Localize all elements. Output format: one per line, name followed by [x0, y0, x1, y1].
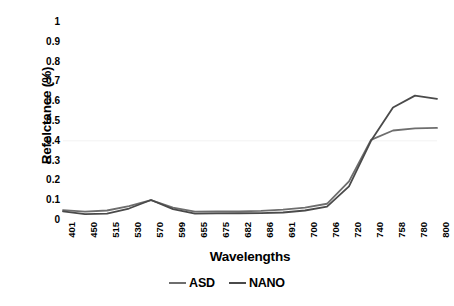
- x-axis-tick-label: 530: [133, 222, 143, 238]
- y-axis-tick-labels: 10.90.80.70.60.50.40.30.20.10: [30, 0, 60, 306]
- y-axis-tick-label: 0.6: [30, 96, 60, 106]
- legend-line-swatch: [229, 282, 246, 285]
- y-axis-tick-label: 0.9: [30, 37, 60, 47]
- y-axis-tick-label: 0.2: [30, 175, 60, 185]
- x-axis-title: Wavelengths: [63, 249, 437, 264]
- x-axis-tick-label: 720: [353, 222, 363, 238]
- y-axis-tick-label: 0.7: [30, 76, 60, 86]
- x-axis-tick-label: 682: [243, 222, 253, 238]
- x-axis-tick-label: 450: [89, 222, 99, 238]
- y-axis-tick-label: 0: [30, 215, 60, 225]
- x-axis-tick-label: 655: [199, 222, 209, 238]
- x-axis-tick-label: 570: [155, 222, 165, 238]
- y-axis-tick-label: 0.8: [30, 57, 60, 67]
- y-axis-tick-label: 0.1: [30, 195, 60, 205]
- x-axis-tick-label: 780: [419, 222, 429, 238]
- series-lines: [63, 96, 437, 214]
- legend-label: NANO: [249, 276, 285, 290]
- reflectance-line-chart: Refelctance (%) 10.90.80.70.60.50.40.30.…: [0, 0, 454, 306]
- x-axis-tick-label: 691: [287, 222, 297, 238]
- chart-legend: ASDNANO: [0, 276, 454, 290]
- legend-label: ASD: [189, 276, 215, 290]
- y-axis-tick-label: 0.3: [30, 156, 60, 166]
- legend-entry-asd[interactable]: ASD: [169, 276, 215, 290]
- x-axis-tick-label: 706: [331, 222, 341, 238]
- x-axis-tick-label: 515: [111, 222, 121, 238]
- x-axis-tick-label: 599: [177, 222, 187, 238]
- series-line-nano: [63, 96, 437, 214]
- x-axis-tick-label: 401: [67, 222, 77, 238]
- legend-entry-nano[interactable]: NANO: [229, 276, 285, 290]
- y-axis-tick-label: 0.4: [30, 136, 60, 146]
- x-axis-tick-label: 758: [397, 222, 407, 238]
- x-axis-tick-label: 686: [265, 222, 275, 238]
- legend-line-swatch: [169, 282, 186, 285]
- plot-svg: [63, 22, 437, 220]
- x-axis-tick-label: 700: [309, 222, 319, 238]
- y-axis-tick-label: 0.5: [30, 116, 60, 126]
- plot-area: [63, 22, 437, 220]
- x-axis-tick-label: 675: [221, 222, 231, 238]
- x-axis-tick-label: 740: [375, 222, 385, 238]
- y-axis-tick-label: 1: [30, 17, 60, 27]
- x-axis-tick-label: 800: [441, 222, 451, 238]
